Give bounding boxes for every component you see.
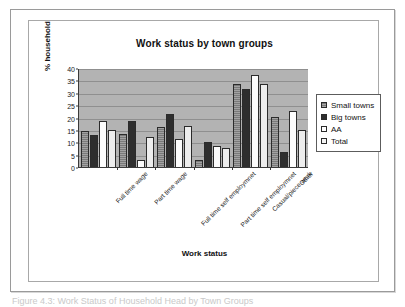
bar[interactable] xyxy=(128,121,136,167)
bar-group xyxy=(155,69,193,167)
legend-swatch-icon xyxy=(321,138,327,144)
x-tick-label: Part time wage xyxy=(153,170,189,206)
legend-item[interactable]: Big towns xyxy=(321,111,374,123)
chart-container: Work status by town groups % household 0… xyxy=(28,20,379,282)
y-axis-ticks: 0510152025303540 xyxy=(57,69,77,168)
bar[interactable] xyxy=(289,111,297,167)
bar[interactable] xyxy=(251,75,259,167)
bar[interactable] xyxy=(108,130,116,167)
chart-legend: Small townsBig townsAATotal xyxy=(316,94,381,152)
bar[interactable] xyxy=(146,137,154,167)
bar[interactable] xyxy=(99,121,107,167)
bar-group xyxy=(117,69,155,167)
screenshot-root: Work status by town groups % household 0… xyxy=(0,0,405,307)
bar[interactable] xyxy=(280,152,288,167)
y-tick-label: 20 xyxy=(67,115,75,122)
legend-label: Big towns xyxy=(331,113,366,122)
bar-group xyxy=(79,69,117,167)
legend-swatch-icon xyxy=(321,126,327,132)
y-tick-label: 40 xyxy=(67,66,75,73)
y-tick-label: 10 xyxy=(67,140,75,147)
legend-label: Total xyxy=(331,137,348,146)
bar[interactable] xyxy=(233,84,241,167)
bar-groups xyxy=(79,69,308,167)
bar[interactable] xyxy=(222,148,230,167)
bar[interactable] xyxy=(260,84,268,167)
bar-group xyxy=(270,69,308,167)
bar[interactable] xyxy=(157,127,165,167)
plot-area xyxy=(78,69,308,168)
legend-item[interactable]: Total xyxy=(321,135,374,147)
y-axis-title: % household xyxy=(43,11,55,81)
legend-item[interactable]: Small towns xyxy=(321,99,374,111)
y-tick-label: 30 xyxy=(67,90,75,97)
x-axis-tick-labels: Full time wagePart time wageFull time se… xyxy=(78,170,308,250)
figure-caption: Figure 4.3: Work Status of Household Hea… xyxy=(12,296,392,307)
bar[interactable] xyxy=(242,89,250,167)
y-tick-label: 5 xyxy=(71,152,75,159)
bar[interactable] xyxy=(137,160,145,167)
legend-item[interactable]: AA xyxy=(321,123,374,135)
legend-swatch-icon xyxy=(321,114,327,120)
bar-group xyxy=(194,69,232,167)
bar[interactable] xyxy=(271,117,279,167)
chart-title: Work status by town groups xyxy=(29,38,380,49)
bar[interactable] xyxy=(195,160,203,167)
legend-swatch-icon xyxy=(321,102,327,108)
bar[interactable] xyxy=(204,142,212,167)
figure-outer-frame: Work status by town groups % household 0… xyxy=(10,9,395,292)
plot-area-wrapper xyxy=(78,69,308,168)
y-tick-label: 35 xyxy=(67,78,75,85)
bar[interactable] xyxy=(90,135,98,167)
bar-group xyxy=(232,69,270,167)
bar[interactable] xyxy=(298,130,306,167)
y-tick-label: 0 xyxy=(71,165,75,172)
x-tick-label: Full time wage xyxy=(114,170,149,205)
bar[interactable] xyxy=(175,139,183,167)
bar[interactable] xyxy=(81,131,89,167)
bar[interactable] xyxy=(184,126,192,167)
legend-label: Small towns xyxy=(331,101,374,110)
bar[interactable] xyxy=(119,134,127,167)
bar[interactable] xyxy=(213,146,221,167)
x-tick-label: Other xyxy=(298,170,314,186)
bar[interactable] xyxy=(166,114,174,167)
y-tick-label: 25 xyxy=(67,103,75,110)
y-tick-label: 15 xyxy=(67,127,75,134)
x-axis-title: Work status xyxy=(29,249,380,258)
legend-label: AA xyxy=(331,125,342,134)
